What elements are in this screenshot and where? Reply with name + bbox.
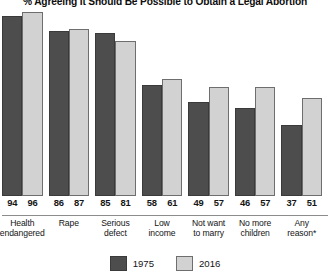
- bar-1975-rape: [49, 31, 69, 196]
- bar-1975-serious-defect: [95, 33, 115, 196]
- legend-item-2016: 2016: [176, 256, 220, 271]
- bar-1975-any-reason: [281, 125, 301, 196]
- value-label: 61: [162, 197, 182, 208]
- axis-baseline-rule: [2, 215, 328, 216]
- value-label: 87: [69, 197, 89, 208]
- value-label: 85: [95, 197, 115, 208]
- bar-2016-any-reason: [302, 98, 322, 196]
- category-label: Lowincome: [139, 218, 186, 239]
- bar-2016-low-income: [162, 79, 182, 196]
- bar-2016-serious-defect: [115, 41, 135, 196]
- bar-group: [95, 0, 136, 196]
- bar-2016-rape: [69, 29, 89, 196]
- value-label: 81: [115, 197, 135, 208]
- value-label: 96: [22, 197, 42, 208]
- value-label: 58: [142, 197, 162, 208]
- bar-group: [235, 0, 276, 196]
- bar-group: [49, 0, 90, 196]
- plot-area: [0, 0, 330, 196]
- category-label: Seriousdefect: [92, 218, 139, 239]
- value-labels-row: 9496868785815861495746573751: [0, 197, 330, 214]
- chart-legend: 19752016: [0, 253, 330, 273]
- bar-2016-no-more-children: [255, 87, 275, 196]
- bar-1975-no-more-children: [235, 108, 255, 196]
- bar-1975-not-want-to-marry: [188, 102, 208, 196]
- value-label: 94: [2, 197, 22, 208]
- bar-group: [281, 0, 322, 196]
- category-label: Anyreason*: [278, 218, 325, 239]
- value-label: 46: [235, 197, 255, 208]
- value-label: 57: [255, 197, 275, 208]
- legend-label-1975: 1975: [133, 258, 154, 269]
- value-label: 49: [188, 197, 208, 208]
- category-label: Healthendangered: [0, 218, 46, 239]
- bar-group: [2, 0, 43, 196]
- category-label: Not wantto marry: [185, 218, 232, 239]
- legend-swatch-1975: [110, 256, 127, 271]
- legend-item-1975: 1975: [110, 256, 154, 271]
- bar-group: [188, 0, 229, 196]
- bar-chart: % Agreeing It Should Be Possible to Obta…: [0, 0, 330, 276]
- category-label: Rape: [46, 218, 93, 228]
- bar-1975-health-endangered: [2, 16, 22, 196]
- value-label: 37: [281, 197, 301, 208]
- category-labels-row: HealthendangeredRapeSeriousdefectLowinco…: [0, 218, 330, 246]
- bar-2016-not-want-to-marry: [209, 87, 229, 196]
- bar-group: [142, 0, 183, 196]
- bar-2016-health-endangered: [22, 12, 42, 196]
- legend-swatch-2016: [176, 256, 193, 271]
- legend-label-2016: 2016: [199, 258, 220, 269]
- value-label: 51: [302, 197, 322, 208]
- value-label: 86: [49, 197, 69, 208]
- value-label: 57: [209, 197, 229, 208]
- category-label: No morechildren: [232, 218, 279, 239]
- bar-1975-low-income: [142, 85, 162, 196]
